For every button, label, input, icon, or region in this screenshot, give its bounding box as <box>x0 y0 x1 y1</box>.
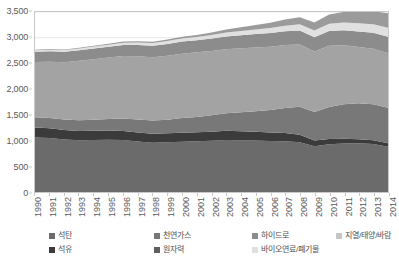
legend-swatch-icon <box>49 233 55 239</box>
y-axis-tick-mark <box>29 141 32 142</box>
y-axis-tick-mark <box>29 11 32 12</box>
x-axis-tick-mark <box>138 193 139 196</box>
x-axis-tick-label: 1992 <box>64 197 73 217</box>
x-axis-tick-mark <box>182 193 183 196</box>
legend-item-label: 지열/태양/바람 <box>345 232 391 240</box>
x-axis-tick-label: 2003 <box>226 197 235 217</box>
legend-swatch-icon <box>49 247 55 253</box>
x-axis-tick-mark <box>345 193 346 196</box>
x-axis-tick-label: 2010 <box>330 197 339 217</box>
x-axis-tick-mark <box>78 193 79 196</box>
x-axis-tick-label: 2007 <box>285 197 294 217</box>
x-axis-tick-mark <box>212 193 213 196</box>
legend-item-label: 석탄 <box>58 232 72 240</box>
y-axis-tick-mark <box>29 115 32 116</box>
legend-item-label: 하이드로 <box>261 232 289 240</box>
y-axis-tick-label: 3,000 <box>6 33 28 42</box>
x-axis-tick-label: 1994 <box>93 197 102 217</box>
x-axis-tick-mark <box>359 193 360 196</box>
x-axis-tick-label: 2009 <box>315 197 324 217</box>
x-axis-tick-mark <box>64 193 65 196</box>
x-axis-tick-mark <box>167 193 168 196</box>
x-axis-tick-mark <box>241 193 242 196</box>
legend-item-label: 석유 <box>58 246 72 254</box>
legend-swatch-icon <box>252 247 258 253</box>
legend-swatch-icon <box>252 233 258 239</box>
x-axis-tick-mark <box>300 193 301 196</box>
x-axis-tick-mark <box>285 193 286 196</box>
y-axis-tick-label: 1,000 <box>6 137 28 146</box>
x-axis-tick-label: 2002 <box>212 197 221 217</box>
legend-item[interactable]: 하이드로 <box>252 232 289 240</box>
legend-item[interactable]: 원자력 <box>154 246 184 254</box>
y-axis: 05001,0001,5002,0002,5003,0003,500 <box>0 11 32 193</box>
y-axis-tick-label: 2,000 <box>6 85 28 94</box>
y-axis-tick-label: 500 <box>14 163 28 172</box>
legend-item-label: 천연가스 <box>163 232 191 240</box>
legend-item[interactable]: 천연가스 <box>154 232 191 240</box>
legend-item-label: 바이오연료/폐기물 <box>261 246 319 254</box>
x-axis-tick-label: 2012 <box>359 197 368 217</box>
y-axis-tick-label: 3,500 <box>6 7 28 16</box>
x-axis-tick-mark <box>271 193 272 196</box>
legend-item[interactable]: 석유 <box>49 246 72 254</box>
y-axis-tick-label: 1,500 <box>6 111 28 120</box>
x-axis-tick-label: 1999 <box>167 197 176 217</box>
legend-swatch-icon <box>336 233 342 239</box>
x-axis-tick-mark <box>226 193 227 196</box>
x-axis-tick-label: 2011 <box>345 197 354 216</box>
x-axis-tick-mark <box>374 193 375 196</box>
legend-item[interactable]: 지열/태양/바람 <box>336 232 391 240</box>
x-axis-tick-label: 1997 <box>138 197 147 217</box>
y-axis-tick-mark <box>29 167 32 168</box>
x-axis-tick-label: 1995 <box>108 197 117 217</box>
x-axis-tick-mark <box>108 193 109 196</box>
chart-legend: 석탄석유천연가스원자력하이드로바이오연료/폐기물지열/태양/바람 <box>34 232 389 262</box>
x-axis-tick-mark <box>34 193 35 196</box>
x-axis-tick-label: 1990 <box>34 197 43 217</box>
x-axis-tick-label: 2004 <box>241 197 250 217</box>
area-series-group <box>35 12 388 192</box>
y-axis-tick-label: 2,500 <box>6 59 28 68</box>
y-axis-tick-mark <box>29 89 32 90</box>
x-axis-tick-label: 2014 <box>389 197 398 217</box>
x-axis-tick-label: 2006 <box>271 197 280 217</box>
plot-area <box>34 11 389 193</box>
area-band <box>35 137 388 192</box>
x-axis: 1990199119921993199419951996199719981999… <box>34 193 389 235</box>
x-axis-tick-mark <box>197 193 198 196</box>
x-axis-tick-label: 2008 <box>300 197 309 217</box>
x-axis-tick-label: 1996 <box>123 197 132 217</box>
y-axis-tick-mark <box>29 193 32 194</box>
x-axis-tick-label: 2000 <box>182 197 191 217</box>
legend-swatch-icon <box>154 233 160 239</box>
x-axis-tick-label: 2005 <box>256 197 265 217</box>
y-axis-tick-mark <box>29 37 32 38</box>
x-axis-tick-mark <box>389 193 390 196</box>
x-axis-tick-mark <box>152 193 153 196</box>
x-axis-tick-mark <box>93 193 94 196</box>
y-axis-tick-label: 0 <box>23 189 28 198</box>
stacked-area-chart: 05001,0001,5002,0002,5003,0003,500 19901… <box>0 0 399 268</box>
legend-item[interactable]: 석탄 <box>49 232 72 240</box>
x-axis-tick-mark <box>123 193 124 196</box>
x-axis-tick-label: 1998 <box>152 197 161 217</box>
x-axis-tick-mark <box>49 193 50 196</box>
legend-swatch-icon <box>154 247 160 253</box>
x-axis-tick-mark <box>315 193 316 196</box>
x-axis-tick-mark <box>256 193 257 196</box>
x-axis-tick-label: 1993 <box>78 197 87 217</box>
plot-svg <box>35 12 388 192</box>
x-axis-tick-label: 2013 <box>374 197 383 217</box>
y-axis-tick-mark <box>29 63 32 64</box>
legend-item-label: 원자력 <box>163 246 184 254</box>
x-axis-tick-label: 2001 <box>197 197 206 217</box>
legend-item[interactable]: 바이오연료/폐기물 <box>252 246 319 254</box>
x-axis-tick-label: 1991 <box>49 197 58 217</box>
x-axis-tick-mark <box>330 193 331 196</box>
